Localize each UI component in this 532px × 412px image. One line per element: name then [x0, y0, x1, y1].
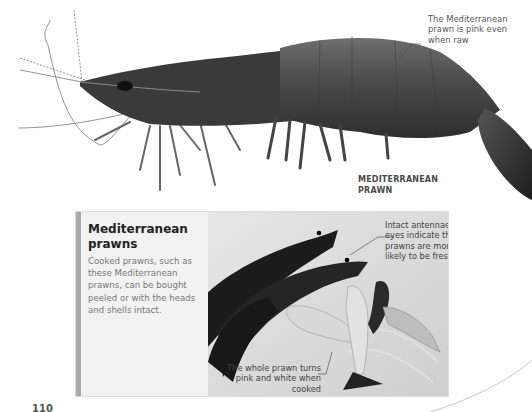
caption-line-2: PRAWN — [358, 186, 438, 197]
info-title: Mediterranean prawns — [88, 222, 202, 252]
prawn-caption: MEDITERRANEAN PRAWN — [358, 175, 438, 196]
book-page: The Mediterranean prawn is pink even whe… — [0, 0, 532, 412]
caption-line-1: MEDITERRANEAN — [358, 175, 438, 186]
callout-fresh-prawns: Intact antennae and eyes indicate the pr… — [385, 220, 448, 261]
page-number: 110 — [32, 403, 53, 412]
callout-cooked-color: The whole prawn turns pink and white whe… — [211, 363, 321, 394]
info-text-panel: Mediterranean prawns Cooked prawns, such… — [81, 212, 208, 396]
info-body: Cooked prawns, such as these Mediterrane… — [88, 255, 202, 316]
info-box: Mediterranean prawns Cooked prawns, such… — [76, 212, 448, 396]
callout-pink-when-raw: The Mediterranean prawn is pink even whe… — [428, 14, 528, 45]
page-curve-decoration — [430, 360, 532, 412]
